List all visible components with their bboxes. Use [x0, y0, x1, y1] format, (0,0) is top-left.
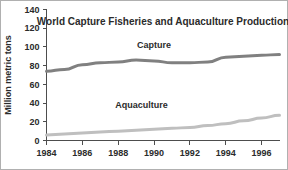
series-annotations: CaptureAquaculture	[115, 40, 171, 110]
x-tick-label: 1986	[72, 148, 92, 158]
x-axis-ticks: 1984198619881990199219941996	[36, 141, 271, 158]
x-tick-label: 1990	[144, 148, 164, 158]
x-tick-label: 1992	[180, 148, 200, 158]
y-tick-label: 80	[29, 61, 39, 71]
series-lines	[47, 54, 280, 134]
x-tick-label: 1996	[252, 148, 272, 158]
x-tick-label: 1988	[108, 148, 128, 158]
y-tick-label: 0	[34, 136, 39, 146]
series-line-capture	[47, 54, 280, 71]
y-axis-title: Million metric tons	[3, 35, 13, 115]
series-inline-label: Aquaculture	[115, 100, 168, 110]
y-tick-label: 40	[29, 98, 39, 108]
series-inline-label: Capture	[137, 40, 171, 50]
chart-canvas: 020406080100120140 198419861988199019921…	[0, 0, 288, 170]
chart-figure: 020406080100120140 198419861988199019921…	[0, 0, 288, 170]
x-tick-label: 1984	[36, 148, 56, 158]
y-tick-label: 60	[29, 80, 39, 90]
chart-title: World Capture Fisheries and Aquaculture …	[37, 16, 288, 27]
y-tick-label: 100	[24, 42, 39, 52]
y-tick-label: 20	[29, 117, 39, 127]
series-line-aquaculture	[47, 115, 280, 135]
y-tick-label: 140	[24, 5, 39, 15]
x-tick-label: 1994	[216, 148, 236, 158]
